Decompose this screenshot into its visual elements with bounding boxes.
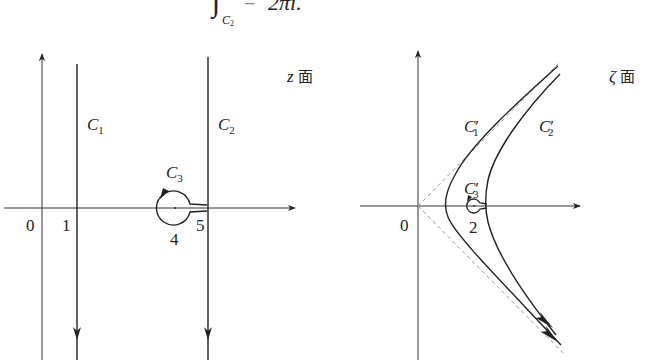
zeta-point-2 [473, 205, 475, 207]
z-origin-label: 0 [26, 217, 35, 234]
zeta-contour-c2p [486, 74, 560, 335]
zeta-tick-2: 2 [469, 219, 478, 236]
zeta-label-c2p: C′2 [539, 118, 554, 138]
formula: ∫ [212, 0, 220, 16]
diagram-canvas [0, 0, 651, 364]
z-plane-graphics [4, 54, 295, 360]
integral-sign: ∫ [212, 0, 220, 17]
formula-equals: = [244, 0, 255, 12]
zeta-plane-graphics [360, 51, 580, 360]
z-tick-1: 1 [62, 217, 71, 234]
zeta-label-c3p: C′3 [464, 180, 479, 200]
z-point-4 [174, 207, 176, 209]
c2p-arrow-icon [536, 312, 553, 328]
c3-arrow-icon [160, 188, 169, 199]
formula-rhs: 2πi. [268, 0, 302, 14]
z-tick-5: 5 [196, 217, 205, 234]
z-label-c2: C2 [218, 116, 235, 136]
zeta-asymptote-lower [418, 206, 564, 354]
z-plane-title: z 面 [287, 68, 313, 85]
zeta-label-c1p: C′1 [464, 118, 479, 138]
zeta-plane-title: ζ 面 [609, 68, 635, 85]
zeta-origin-label: 0 [400, 217, 409, 234]
z-label-c1: C1 [87, 116, 104, 136]
z-tick-4: 4 [170, 231, 179, 248]
z-label-c3: C3 [166, 164, 183, 184]
formula-subscript: C2 [222, 14, 234, 28]
